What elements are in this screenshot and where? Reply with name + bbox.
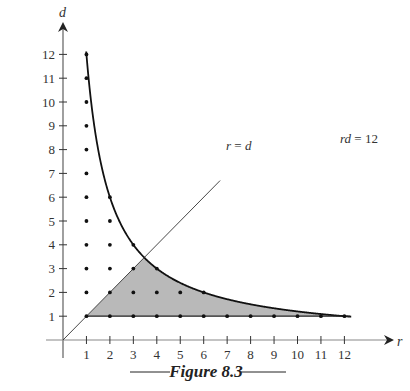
lattice-dot (131, 291, 135, 295)
lattice-dot (85, 172, 89, 176)
x-axis-label: r (397, 334, 403, 349)
y-tick-label: 8 (49, 142, 56, 157)
lattice-dot (85, 76, 89, 80)
x-tick-label: 1 (83, 347, 90, 362)
lattice-dot (85, 195, 89, 199)
lattice-dot (85, 100, 89, 104)
lattice-dot (85, 243, 89, 247)
lattice-dot (85, 148, 89, 152)
lattice-dot (155, 267, 159, 271)
lattice-dot (131, 314, 135, 318)
lattice-dot (225, 314, 229, 318)
line-label: r = d (226, 138, 252, 153)
figure-caption: Figure 8.3 (168, 362, 243, 381)
lattice-dot (85, 267, 89, 271)
lattice-dot (178, 314, 182, 318)
y-tick-label: 4 (49, 237, 56, 252)
lattice-dot (319, 314, 323, 318)
y-tick-label: 1 (49, 309, 56, 324)
x-tick-label: 9 (271, 347, 278, 362)
y-tick-label: 6 (49, 190, 56, 205)
lattice-dot (155, 314, 159, 318)
figure-canvas: 123456789101112123456789101112 d r r = d… (0, 0, 410, 391)
lattice-dot (296, 314, 300, 318)
x-tick-label: 6 (200, 347, 207, 362)
lattice-dot (85, 219, 89, 223)
lattice-dot (202, 314, 206, 318)
y-tick-label: 5 (49, 214, 56, 229)
lattice-dot (202, 291, 206, 295)
y-tick-label: 2 (49, 285, 56, 300)
y-tick-label: 7 (49, 166, 56, 181)
lattice-dot (108, 291, 112, 295)
lattice-dot (108, 195, 112, 199)
lattice-dot (131, 243, 135, 247)
lattice-dot (85, 291, 89, 295)
lattice-dot (155, 291, 159, 295)
y-tick-label: 9 (49, 118, 56, 133)
y-tick-label: 3 (49, 261, 56, 276)
lattice-dot (272, 314, 276, 318)
lattice-dot (343, 314, 347, 318)
y-tick-label: 12 (42, 47, 55, 62)
shaded-region (86, 258, 344, 317)
lattice-dot (85, 314, 89, 318)
lattice-dot (85, 53, 89, 57)
lattice-dot (108, 314, 112, 318)
x-tick-label: 3 (130, 347, 137, 362)
lattice-dot (85, 124, 89, 128)
x-tick-label: 12 (338, 347, 351, 362)
x-tick-label: 5 (177, 347, 184, 362)
lattice-dot (108, 219, 112, 223)
y-axis-label: d (59, 5, 67, 20)
lattice-dot (178, 291, 182, 295)
y-tick-label: 10 (42, 95, 55, 110)
curve-label: rd = 12 (340, 131, 378, 146)
y-tick-label: 11 (42, 71, 55, 86)
lattice-dot (131, 267, 135, 271)
x-tick-label: 2 (107, 347, 114, 362)
x-tick-label: 4 (154, 347, 161, 362)
x-tick-label: 7 (224, 347, 231, 362)
lattice-dot (108, 243, 112, 247)
x-tick-label: 11 (315, 347, 328, 362)
x-tick-label: 8 (247, 347, 254, 362)
diagonal-line (63, 181, 350, 340)
x-tick-label: 10 (291, 347, 304, 362)
lattice-dot (108, 267, 112, 271)
lattice-dot (249, 314, 253, 318)
